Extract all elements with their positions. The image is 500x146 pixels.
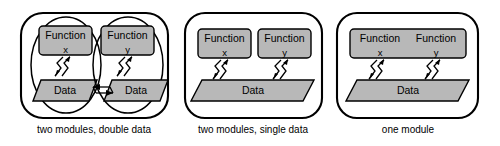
caption-panel-3: one module bbox=[382, 124, 435, 135]
function-box-2x-title: Function bbox=[204, 32, 244, 44]
function-box-2y-title: Function bbox=[264, 32, 304, 44]
panel-one-module: Function Function x y Data bbox=[337, 13, 478, 118]
function-box-y-title: Function bbox=[107, 29, 147, 41]
function-box-3-variable-x: x bbox=[378, 47, 383, 58]
caption-panel-1: two modules, double data bbox=[37, 124, 151, 135]
data-shape-1a-label: Data bbox=[54, 84, 76, 96]
function-box-3-title-x: Function bbox=[360, 32, 400, 44]
panel-two-modules-double-data: Function x Data Function y D bbox=[21, 13, 168, 118]
panel-two-modules-single-data: Function x Function y Data bbox=[185, 13, 322, 118]
function-box-x-title: Function bbox=[45, 29, 85, 41]
function-box-2x-variable: x bbox=[222, 47, 227, 58]
caption-panel-2: two modules, single data bbox=[198, 124, 309, 135]
diagram-root: Function x Data Function y D bbox=[0, 0, 500, 146]
data-shape-1b-label: Data bbox=[125, 84, 147, 96]
function-box-x-variable: x bbox=[63, 44, 68, 55]
data-shape-2-label: Data bbox=[242, 84, 264, 96]
module-comparison-diagram: Function x Data Function y D bbox=[0, 0, 500, 146]
function-box-3-variable-y: y bbox=[434, 47, 439, 58]
function-box-3-title-y: Function bbox=[416, 32, 456, 44]
data-shape-3-label: Data bbox=[397, 84, 419, 96]
function-box-2y-variable: y bbox=[282, 47, 287, 58]
function-box-y-variable: y bbox=[125, 44, 130, 55]
